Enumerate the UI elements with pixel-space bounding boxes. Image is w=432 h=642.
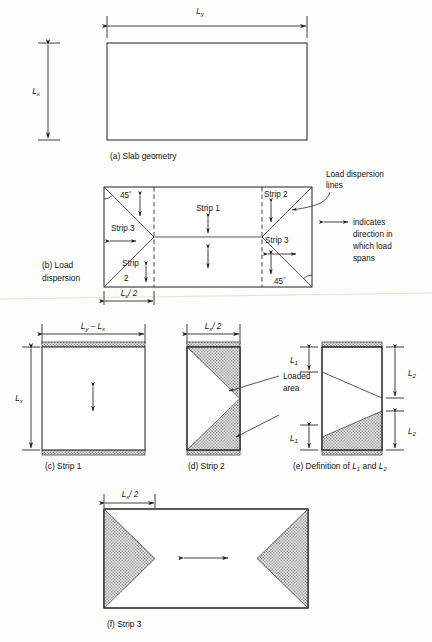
slab-load-dispersion-figure: Ly Lx (a) Slab geometry 45° 45° Strip 1	[0, 0, 432, 642]
panel-d-loaded-note-line1: Loaded	[283, 372, 311, 381]
panel-c-strip-rect	[42, 347, 145, 450]
panel-c-support-top	[42, 342, 145, 347]
panel-b-direction-note-line1: indicates	[353, 218, 385, 227]
panel-e-support-top	[322, 342, 382, 347]
panel-d-support-bottom	[187, 450, 240, 455]
panel-b-lx2-label: Lx/ 2	[121, 289, 138, 299]
panel-f-width-label: Lx/ 2	[122, 490, 139, 500]
panel-b-direction-note-line4: spans	[353, 254, 375, 263]
panel-b-caption-line1: (b) Load	[42, 260, 74, 270]
panel-b-dispersion-note-line1: Load dispersion	[326, 170, 384, 179]
panel-d-width-label: Lx/ 2	[205, 322, 222, 332]
panel-a-caption: (a) Slab geometry	[110, 151, 177, 161]
panel-b-strip3-left-label: Strip 3	[111, 224, 135, 233]
panel-d-loaded-note-line2: area	[283, 384, 300, 393]
panel-b-strip1-label: Strip 1	[196, 204, 220, 213]
panel-b-direction-note-line3: which load	[352, 242, 392, 251]
panel-b-dispersion-note-line2: lines	[326, 181, 343, 190]
panel-b-strip3-right-label: Strip 3	[265, 236, 289, 245]
panel-b-caption-line2: dispersion	[42, 273, 81, 283]
panel-e-support-bottom	[322, 450, 382, 455]
panel-d-support-top	[187, 342, 240, 347]
panel-e-caption: (e) Definition of L1 and L2	[293, 461, 388, 472]
panel-a-slab-rect	[107, 43, 307, 140]
panel-b-strip2-top-label: Strip 2	[264, 190, 288, 199]
panel-d-caption: (d) Strip 2	[188, 461, 225, 471]
panel-c-support-bottom	[42, 450, 145, 455]
panel-c-caption: (c) Strip 1	[45, 461, 82, 471]
panel-f-strip3: Lx/ 2 (f) Strip 3	[104, 490, 308, 629]
panel-b-strip2-left-label-line1: Strip	[122, 259, 139, 268]
panel-b-direction-note-line2: direction in	[353, 230, 393, 239]
panel-b-strip2-left-label-line2: 2	[124, 274, 129, 283]
panel-f-caption: (f) Strip 3	[107, 619, 142, 629]
